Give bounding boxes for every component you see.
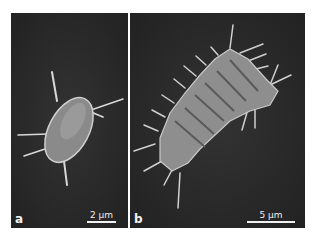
panel-label-a: a <box>15 213 23 225</box>
scale-bar-line-a <box>87 221 116 223</box>
scale-bar-a: 2 µm <box>87 210 116 223</box>
panel-b: b 5 µm <box>130 13 305 228</box>
scale-bar-text-b: 5 µm <box>259 210 282 220</box>
micrograph-a <box>11 13 128 228</box>
panel-label-b: b <box>134 213 143 225</box>
scale-bar-text-a: 2 µm <box>90 210 113 220</box>
panel-a: a 2 µm <box>11 13 128 228</box>
scale-bar-line-b <box>247 221 295 223</box>
scale-bar-b: 5 µm <box>247 210 295 223</box>
micrograph-b <box>130 13 305 228</box>
